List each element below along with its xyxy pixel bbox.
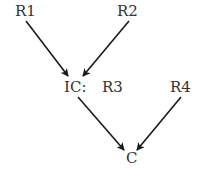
node-r4: R4 bbox=[170, 80, 191, 95]
arrow-r2-to-ic bbox=[83, 21, 129, 76]
node-c: C bbox=[126, 151, 137, 166]
arrow-r1-to-ic bbox=[26, 21, 68, 76]
arrows-layer bbox=[0, 0, 198, 171]
node-r3: R3 bbox=[102, 80, 123, 95]
node-r2: R2 bbox=[117, 4, 138, 19]
node-ic: IC: bbox=[64, 80, 86, 95]
node-r1: R1 bbox=[15, 4, 36, 19]
arrow-r4-to-c bbox=[137, 97, 181, 150]
arrow-ic-to-c bbox=[78, 97, 124, 150]
